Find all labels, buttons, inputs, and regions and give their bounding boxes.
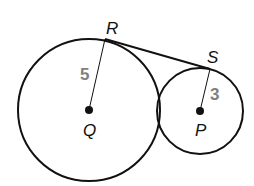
radius-label-5: 5 xyxy=(80,65,89,84)
label-p: P xyxy=(195,121,207,140)
label-r: R xyxy=(106,19,118,38)
label-q: Q xyxy=(83,121,96,140)
radius-ps xyxy=(200,69,210,111)
label-s: S xyxy=(207,48,219,67)
radius-qr xyxy=(89,39,105,110)
tangent-circles-diagram: R S Q P 5 3 xyxy=(0,0,254,186)
center-point-p xyxy=(196,107,204,115)
radius-label-3: 3 xyxy=(210,85,219,104)
center-point-q xyxy=(85,106,93,114)
tangent-segment-rs xyxy=(105,39,210,69)
